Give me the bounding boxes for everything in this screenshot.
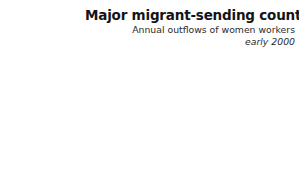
plot-area: 414,733 Mexico 325,045 Indonesia 184,454…	[0, 0, 299, 188]
bar-chart-figure: Major migrant-sending countries Annual o…	[0, 0, 299, 188]
